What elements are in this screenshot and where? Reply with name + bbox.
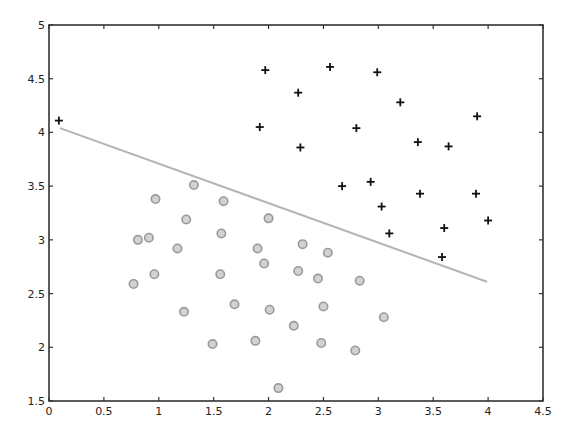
plus-marker xyxy=(261,66,269,74)
circle-marker xyxy=(208,340,216,348)
circle-marker xyxy=(182,215,190,223)
y-tick-label: 2 xyxy=(38,341,45,354)
x-tick-label: 4 xyxy=(485,405,492,418)
circle-marker xyxy=(317,339,325,347)
circle-marker xyxy=(351,346,359,354)
y-tick-label: 4 xyxy=(38,126,45,139)
y-tick-label: 2.5 xyxy=(28,288,46,301)
x-tick-label: 0 xyxy=(46,405,53,418)
plus-marker xyxy=(414,138,422,146)
x-tick-label: 3.5 xyxy=(424,405,442,418)
plus-marker xyxy=(385,229,393,237)
plus-marker xyxy=(484,217,492,225)
circle-marker xyxy=(217,229,225,237)
plus-marker xyxy=(473,112,481,120)
plus-marker xyxy=(438,253,446,261)
circle-marker xyxy=(274,384,282,392)
x-tick-label: 0.5 xyxy=(95,405,113,418)
circle-marker xyxy=(264,214,272,222)
circle-marker xyxy=(260,259,268,267)
plus-marker xyxy=(296,143,304,151)
circle-marker xyxy=(298,240,306,248)
decision-boundary xyxy=(60,128,487,282)
x-tick-label: 1 xyxy=(155,405,162,418)
circle-marker xyxy=(173,244,181,252)
x-tick-label: 3 xyxy=(375,405,382,418)
plus-marker xyxy=(378,203,386,211)
plus-marker xyxy=(55,117,63,125)
circle-marker xyxy=(319,302,327,310)
circle-marker xyxy=(380,313,388,321)
circle-marker xyxy=(216,270,224,278)
decision-boundary-line xyxy=(60,128,487,282)
circle-marker xyxy=(294,267,302,275)
circle-marker xyxy=(265,305,273,313)
circle-marker xyxy=(190,181,198,189)
plus-marker xyxy=(440,224,448,232)
plus-marker xyxy=(373,68,381,76)
circle-marker xyxy=(251,337,259,345)
plus-marker xyxy=(367,178,375,186)
y-tick-label: 3.5 xyxy=(28,180,46,193)
x-tick-label: 1.5 xyxy=(205,405,223,418)
plus-marker xyxy=(416,190,424,198)
circle-marker xyxy=(134,236,142,244)
x-tick-label: 4.5 xyxy=(534,405,552,418)
circle-marker xyxy=(253,244,261,252)
y-tick-label: 5 xyxy=(38,19,45,32)
circle-marker xyxy=(324,249,332,257)
circle-marker xyxy=(180,308,188,316)
negative-class-points xyxy=(129,181,388,392)
axes: 00.511.522.533.544.51.522.533.544.55 xyxy=(28,19,552,418)
circle-marker xyxy=(314,274,322,282)
plus-marker xyxy=(256,123,264,131)
circle-marker xyxy=(290,322,298,330)
plus-marker xyxy=(396,98,404,106)
x-tick-label: 2 xyxy=(265,405,272,418)
circle-marker xyxy=(145,234,153,242)
y-tick-label: 3 xyxy=(38,234,45,247)
circle-marker xyxy=(230,300,238,308)
circle-marker xyxy=(355,276,363,284)
plus-marker xyxy=(294,89,302,97)
positive-class-points xyxy=(55,63,492,261)
y-tick-label: 4.5 xyxy=(28,73,46,86)
y-tick-label: 1.5 xyxy=(28,395,46,408)
plus-marker xyxy=(338,182,346,190)
circle-marker xyxy=(151,195,159,203)
x-tick-label: 2.5 xyxy=(315,405,333,418)
plus-marker xyxy=(445,142,453,150)
plus-marker xyxy=(326,63,334,71)
circle-marker xyxy=(219,197,227,205)
scatter-chart: 00.511.522.533.544.51.522.533.544.55 xyxy=(0,0,576,436)
plus-marker xyxy=(472,190,480,198)
circle-marker xyxy=(129,280,137,288)
plus-marker xyxy=(352,124,360,132)
circle-marker xyxy=(150,270,158,278)
